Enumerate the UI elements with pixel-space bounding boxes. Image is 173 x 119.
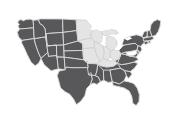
- state-connecticut[interactable]: [144, 41, 149, 45]
- us-map-svg: [0, 0, 173, 119]
- state-minnesota[interactable]: [76, 20, 93, 41]
- state-oregon[interactable]: [17, 28, 34, 41]
- state-florida[interactable]: [112, 81, 139, 106]
- state-washington[interactable]: [18, 19, 34, 29]
- region-northeast: [119, 20, 161, 54]
- region-west: [17, 19, 65, 71]
- state-wyoming[interactable]: [46, 32, 63, 45]
- state-vermont[interactable]: [142, 31, 147, 38]
- us-states-map-figure: [0, 0, 173, 119]
- state-maine[interactable]: [150, 20, 161, 37]
- state-north-dakota[interactable]: [63, 19, 77, 32]
- state-texas[interactable]: [57, 67, 92, 104]
